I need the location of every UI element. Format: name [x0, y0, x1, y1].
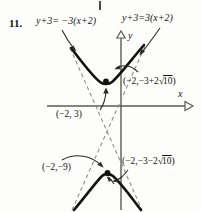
x-axis-arrowhead — [185, 102, 193, 111]
hyperbola-figure — [0, 0, 201, 212]
y-axis-arrowhead — [117, 31, 125, 38]
upper-vertex-dot — [103, 79, 109, 85]
problem-number: 11. — [9, 18, 22, 29]
arrow-eq-right — [141, 28, 160, 54]
lower-vertex-suffix: ) — [172, 156, 175, 166]
lower-vertex-radicand: 10 — [162, 156, 172, 166]
asymptote-negative-slope — [70, 48, 142, 210]
lower-vertex-coordinate-label: (−2,−3−2√10) — [122, 157, 175, 167]
arrow-center-head — [103, 88, 109, 94]
y-axis-label: y — [128, 31, 132, 41]
upper-vertex-suffix: ) — [173, 76, 176, 86]
equation-right-asymptote-label: y+3=3(x+2) — [122, 13, 173, 23]
arrow-upper-vertex-head — [114, 65, 120, 69]
lower-vertex-prefix: (−2,−3−2 — [122, 156, 158, 166]
lower-vertex-dot — [105, 170, 111, 176]
upper-vertex-radicand: 10 — [163, 76, 173, 86]
x-axis-label: x — [178, 89, 182, 99]
upper-vertex-prefix: (−2,−3+2 — [123, 76, 159, 86]
upper-vertex-coordinate-label: (−2,−3+2√10) — [123, 77, 176, 87]
center-coordinate-label: (−2, 3) — [56, 110, 82, 120]
lower-branch-curve — [74, 174, 141, 210]
equation-left-asymptote-label: y+3= −3(x+2) — [36, 16, 96, 26]
figure-page: 11. y+3= −3(x+2) y+3=3(x+2) (−2,−3+2√10)… — [0, 0, 201, 212]
lower-point-coordinate-label: (−2,−9) — [42, 163, 71, 173]
